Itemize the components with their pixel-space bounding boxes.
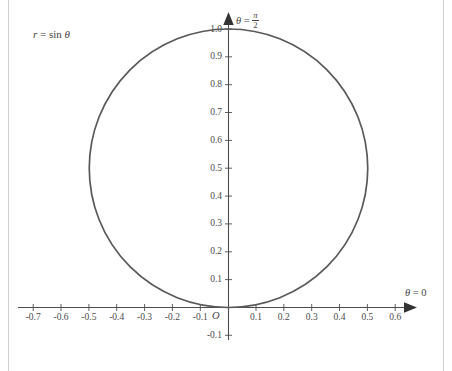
- x-axis-label-theta-equals-zero: θ = 0: [405, 288, 427, 299]
- curve-equation-annotation: r = sin θ: [33, 29, 70, 40]
- y-tick-label: 0.2: [196, 247, 222, 257]
- y-tick-label: 0.8: [196, 80, 222, 90]
- y-tick-label: -0.1: [196, 331, 222, 341]
- equation-operator: = sin: [37, 28, 64, 40]
- y-tick-label: 0.3: [196, 219, 222, 229]
- y-axis-arrowhead: [223, 12, 233, 25]
- y-tick-label: 0.5: [196, 164, 222, 174]
- y-axis-label-fraction: π2: [252, 11, 258, 30]
- y-tick-label: 0.6: [196, 136, 222, 146]
- x-axis-arrowhead: [404, 302, 417, 312]
- y-tick-label: 0.9: [196, 52, 222, 62]
- y-tick-label: 1.0: [196, 25, 222, 35]
- y-tick-label: 0.7: [196, 108, 222, 118]
- y-tick-label: 0.1: [196, 275, 222, 285]
- fraction-denominator-two: 2: [252, 21, 258, 30]
- y-axis-label-theta-equals-pi-over-two: θ = π2: [236, 11, 259, 30]
- y-tick-label: 0.4: [196, 192, 222, 202]
- polar-plot-figure: r = sin θ θ = 0 θ = π2 O -0.7 -0.6 -0.5 …: [0, 0, 452, 371]
- y-axis-label-equals: =: [241, 15, 252, 26]
- x-tick-label: 0.6: [378, 313, 412, 323]
- x-tick-label: -0.1: [183, 313, 217, 323]
- x-axis-label-value: = 0: [410, 287, 426, 298]
- equation-theta: θ: [65, 28, 70, 40]
